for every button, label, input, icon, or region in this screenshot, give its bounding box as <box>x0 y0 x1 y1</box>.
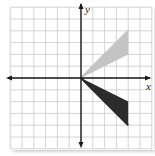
x-axis-left-arrow-icon <box>6 76 12 81</box>
x-axis-label: x <box>145 80 151 92</box>
y-axis-label: y <box>84 3 90 15</box>
axes: x y <box>6 3 151 148</box>
y-axis-down-arrow-icon <box>79 142 84 148</box>
coordinate-plane: x y <box>0 0 155 156</box>
y-axis-up-arrow-icon <box>79 3 84 9</box>
